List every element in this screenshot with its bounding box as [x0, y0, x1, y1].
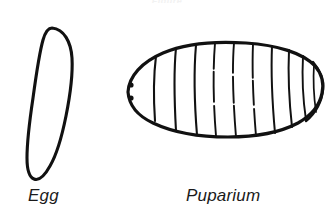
- stage-label-egg: Egg: [28, 186, 59, 206]
- puparium-drawing: [128, 42, 323, 137]
- puparium-outline: [128, 42, 323, 137]
- figure-root: Figure E: [0, 0, 334, 215]
- line-drawing-canvas: [0, 0, 334, 215]
- egg-drawing: [27, 28, 72, 179]
- spiracle-dot: [128, 95, 133, 100]
- stage-label-puparium: Puparium: [186, 186, 260, 206]
- spiracle-dot: [128, 82, 133, 87]
- egg-outline: [27, 28, 72, 179]
